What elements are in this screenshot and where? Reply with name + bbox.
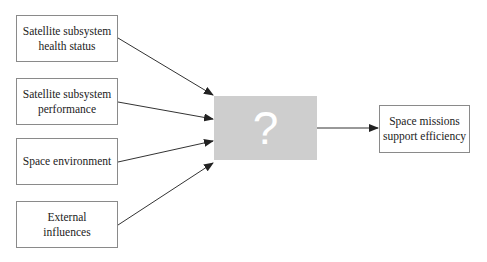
arrow-health-to-process — [118, 38, 213, 95]
input-box-performance: Satellite subsystem performance — [16, 78, 118, 125]
output-box-mission-efficiency: Space missions support efficiency — [379, 105, 470, 153]
question-mark-icon: ? — [253, 101, 279, 155]
arrow-performance-to-process — [118, 102, 213, 119]
output-label: Space missions support efficiency — [382, 114, 467, 144]
unknown-process-box: ? — [214, 96, 317, 160]
input-label: Satellite subsystem performance — [19, 87, 115, 117]
input-box-space-environment: Space environment — [16, 138, 118, 185]
input-label: External influences — [39, 210, 95, 240]
input-box-external-influences: External influences — [16, 201, 118, 248]
arrow-external-to-process — [118, 163, 213, 225]
arrow-environment-to-process — [118, 141, 213, 162]
input-label: Space environment — [23, 154, 111, 169]
input-label: Satellite subsystem health status — [19, 24, 115, 54]
input-box-health-status: Satellite subsystem health status — [16, 15, 118, 62]
